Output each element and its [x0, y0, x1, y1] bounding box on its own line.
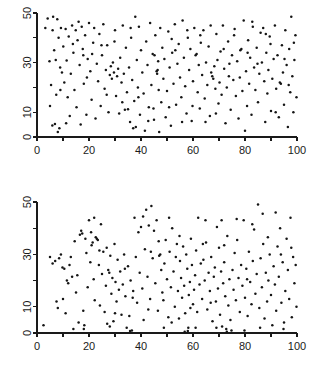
- data-point: [70, 73, 73, 76]
- data-point: [232, 79, 235, 82]
- data-point: [91, 53, 94, 56]
- data-point: [203, 97, 206, 100]
- data-point: [220, 94, 223, 97]
- data-point: [164, 116, 167, 119]
- data-point: [287, 269, 290, 272]
- data-point: [267, 236, 270, 239]
- y-axis-tick-label: 30: [21, 248, 33, 260]
- data-point: [149, 22, 152, 25]
- data-point: [115, 95, 118, 98]
- data-point: [156, 73, 159, 76]
- data-point: [211, 320, 214, 323]
- data-point: [267, 279, 270, 282]
- data-point: [252, 25, 255, 28]
- data-point: [63, 268, 66, 271]
- data-point: [223, 244, 226, 247]
- data-point: [253, 228, 256, 231]
- data-point: [213, 275, 216, 278]
- data-point: [245, 268, 248, 271]
- data-point: [233, 34, 236, 37]
- data-point: [174, 49, 177, 52]
- data-point: [263, 80, 266, 83]
- data-point: [97, 80, 100, 83]
- data-point: [240, 264, 243, 267]
- data-point: [246, 105, 249, 108]
- x-axis-tick-label: 40: [135, 144, 147, 156]
- data-point: [81, 232, 84, 235]
- data-point: [219, 313, 222, 316]
- x-axis-tick-label: 80: [239, 340, 251, 352]
- data-point: [141, 71, 144, 74]
- data-point: [54, 123, 57, 126]
- data-point: [206, 84, 209, 87]
- data-point: [250, 303, 253, 306]
- data-point: [183, 56, 186, 59]
- data-point: [60, 27, 63, 30]
- data-point: [52, 15, 55, 18]
- data-point: [66, 279, 69, 282]
- data-point: [157, 309, 160, 312]
- x-axis-tick-label: 0: [34, 340, 40, 352]
- data-point: [136, 302, 139, 305]
- data-point: [51, 124, 54, 127]
- data-point: [186, 29, 189, 32]
- data-point: [72, 51, 75, 54]
- data-point: [100, 223, 103, 226]
- data-point: [156, 69, 159, 72]
- data-point: [216, 59, 219, 62]
- data-point: [265, 51, 268, 54]
- data-point: [231, 54, 234, 57]
- data-point: [258, 73, 261, 76]
- data-point: [154, 34, 157, 37]
- data-point: [247, 39, 250, 42]
- x-axis-tick-label: 60: [187, 144, 199, 156]
- data-point: [132, 127, 135, 130]
- data-point: [93, 216, 96, 219]
- data-point: [207, 45, 210, 48]
- data-point: [244, 130, 247, 133]
- data-point: [295, 306, 298, 309]
- data-point: [108, 271, 111, 274]
- data-point: [178, 235, 181, 238]
- data-point: [171, 51, 174, 54]
- data-point: [150, 84, 153, 87]
- data-point: [189, 281, 192, 284]
- data-point: [151, 257, 154, 260]
- data-point: [77, 20, 80, 23]
- data-point: [153, 54, 156, 57]
- y-axis-tick-label: 0: [21, 134, 33, 140]
- data-point: [245, 70, 248, 73]
- data-point: [69, 115, 72, 118]
- data-point: [290, 247, 293, 250]
- data-point: [253, 66, 256, 69]
- data-point: [289, 216, 292, 219]
- data-point: [249, 281, 252, 284]
- data-point: [272, 265, 275, 268]
- data-point: [113, 243, 116, 246]
- data-point: [124, 295, 127, 298]
- data-point: [141, 287, 144, 290]
- data-point: [157, 240, 160, 243]
- data-point: [293, 59, 296, 62]
- data-point: [235, 95, 238, 98]
- data-point-group: [42, 203, 297, 333]
- data-point: [181, 121, 184, 124]
- data-point: [251, 223, 254, 226]
- data-point: [139, 113, 142, 116]
- data-point: [140, 226, 143, 229]
- data-point: [157, 60, 160, 63]
- data-point: [82, 309, 85, 312]
- data-point: [72, 43, 75, 46]
- data-point: [147, 308, 150, 311]
- x-axis-tick-label: 100: [288, 144, 306, 156]
- data-point: [187, 327, 190, 330]
- data-point: [160, 269, 163, 272]
- data-point: [270, 294, 273, 297]
- data-point: [236, 60, 239, 63]
- data-point: [68, 264, 71, 267]
- data-point: [248, 82, 251, 85]
- data-point: [127, 108, 130, 111]
- data-point: [187, 37, 190, 40]
- data-point: [145, 40, 148, 43]
- data-point: [283, 58, 286, 61]
